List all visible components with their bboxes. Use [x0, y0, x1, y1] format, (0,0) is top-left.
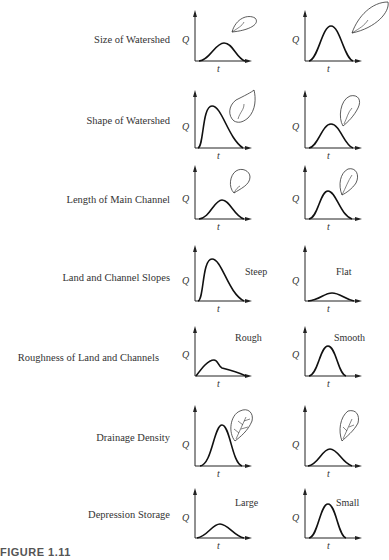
hydrograph-chart	[190, 403, 310, 473]
low-density-leaf-icon	[340, 411, 359, 441]
hydrograph-small-storage: Small Q t	[300, 486, 389, 560]
hydrograph-small-watershed: Q t	[190, 8, 310, 88]
y-axis-label: Q	[292, 34, 299, 45]
hydrograph-large-storage: Large Q t	[190, 486, 310, 560]
x-axis-label: t	[327, 540, 330, 551]
large-watershed-leaf-icon	[352, 2, 388, 33]
long-channel-leaf-icon	[340, 169, 358, 195]
x-axis-label: t	[217, 540, 220, 551]
row-shape-of-watershed: Shape of Watershed Q t Q t	[0, 80, 389, 152]
x-axis-label: t	[217, 303, 220, 314]
condition-label-large: Large	[235, 497, 258, 508]
condition-label-rough: Rough	[235, 332, 262, 343]
row-land-and-channel-slopes: Land and Channel Slopes Steep Q t Flat Q…	[0, 235, 389, 307]
x-axis-label: t	[217, 378, 220, 389]
short-channel-leaf-icon	[230, 169, 250, 193]
row-label: Roughness of Land and Channels	[18, 352, 159, 363]
condition-label-small: Small	[336, 497, 359, 508]
condition-label-smooth: Smooth	[334, 332, 365, 343]
y-axis-label: Q	[292, 121, 299, 132]
hydrograph-chart	[300, 8, 389, 78]
hydrograph-chart	[300, 403, 389, 473]
hydrograph-large-watershed: Q t	[300, 8, 389, 88]
y-axis-label: Q	[292, 512, 299, 523]
y-axis-label: Q	[292, 193, 299, 204]
hydrograph-chart	[300, 163, 389, 233]
hydrograph-low-density: Q t	[300, 403, 389, 483]
x-axis-label: t	[217, 221, 220, 232]
row-label: Land and Channel Slopes	[62, 272, 170, 283]
condition-label-steep: Steep	[245, 266, 267, 277]
x-axis-label: t	[327, 378, 330, 389]
y-axis-label: Q	[292, 439, 299, 450]
high-density-leaf-icon	[231, 410, 253, 441]
elongated-watershed-leaf-icon	[340, 96, 359, 126]
y-axis-label: Q	[182, 439, 189, 450]
row-label: Shape of Watershed	[86, 115, 170, 126]
y-axis-label: Q	[292, 275, 299, 286]
y-axis-label: Q	[182, 193, 189, 204]
round-watershed-leaf-icon	[230, 90, 255, 122]
row-drainage-density: Drainage Density Q t Q t	[0, 395, 389, 467]
hydrograph-rough: Rough Q t	[190, 324, 310, 404]
y-axis-label: Q	[292, 349, 299, 360]
row-length-of-main-channel: Length of Main Channel Q t Q t	[0, 155, 389, 227]
condition-label-flat: Flat	[336, 266, 352, 277]
x-axis-label: t	[327, 63, 330, 74]
hydrograph-long-channel: Q t	[300, 163, 389, 243]
x-axis-label: t	[327, 303, 330, 314]
row-depression-storage: Depression Storage Large Q t Small Q t	[0, 478, 389, 550]
y-axis-label: Q	[182, 512, 189, 523]
row-label: Depression Storage	[88, 509, 170, 520]
hydrograph-smooth: Smooth Q t	[300, 324, 389, 404]
figure-caption: FIGURE 1.11	[0, 546, 71, 558]
row-label: Drainage Density	[96, 432, 170, 443]
row-label: Size of Watershed	[94, 34, 170, 45]
y-axis-label: Q	[182, 121, 189, 132]
x-axis-label: t	[217, 63, 220, 74]
y-axis-label: Q	[182, 275, 189, 286]
row-size-of-watershed: Size of Watershed Q t Q t	[0, 0, 389, 72]
small-watershed-leaf-icon	[232, 17, 256, 32]
x-axis-label: t	[327, 221, 330, 232]
hydrograph-chart	[300, 243, 389, 313]
row-roughness: Roughness of Land and Channels Rough Q t…	[0, 316, 389, 388]
row-label: Length of Main Channel	[66, 194, 170, 205]
hydrograph-flat: Flat Q t	[300, 243, 389, 323]
y-axis-label: Q	[182, 349, 189, 360]
hydrograph-chart	[300, 88, 389, 158]
y-axis-label: Q	[182, 34, 189, 45]
